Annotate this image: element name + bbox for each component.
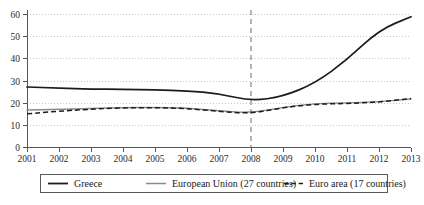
x-tick-label: 2006 (178, 154, 197, 164)
line-chart: 60 50 40 30 20 10 0 20012002200320042005… (0, 0, 424, 205)
x-tick-label: 2008 (242, 154, 261, 164)
x-tick-label: 2013 (402, 154, 421, 164)
x-tick-label: 2012 (370, 154, 389, 164)
x-tick-label: 2004 (114, 154, 133, 164)
y-tick-label: 30 (11, 77, 21, 87)
y-tick-label: 60 (11, 10, 21, 20)
x-tick-label: 2001 (18, 154, 37, 164)
x-tick-label: 2009 (274, 154, 293, 164)
y-tick-label: 50 (11, 32, 21, 42)
chart-figure: 60 50 40 30 20 10 0 20012002200320042005… (0, 0, 424, 205)
y-axis-ticks (23, 15, 28, 148)
chart-legend: Greece European Union (27 countries) Eur… (41, 175, 406, 193)
x-tick-label: 2003 (82, 154, 101, 164)
x-axis-ticks (27, 148, 411, 152)
x-tick-label: 2011 (338, 154, 357, 164)
y-tick-label: 10 (11, 121, 21, 131)
legend-label-euro-area: Euro area (17 countries) (309, 178, 406, 190)
x-tick-label: 2010 (306, 154, 325, 164)
legend-label-greece: Greece (74, 178, 103, 189)
y-tick-label: 40 (11, 54, 21, 64)
legend-label-european-union: European Union (27 countries) (172, 178, 296, 190)
y-tick-label: 0 (15, 143, 20, 153)
y-tick-label: 20 (11, 99, 21, 109)
x-axis-tick-labels: 2001200220032004200520062007200820092010… (18, 154, 421, 164)
y-axis-tick-labels: 60 50 40 30 20 10 0 (11, 10, 21, 153)
plot-background (27, 10, 411, 147)
x-tick-label: 2007 (210, 154, 229, 164)
x-tick-label: 2005 (146, 154, 165, 164)
x-tick-label: 2002 (50, 154, 69, 164)
